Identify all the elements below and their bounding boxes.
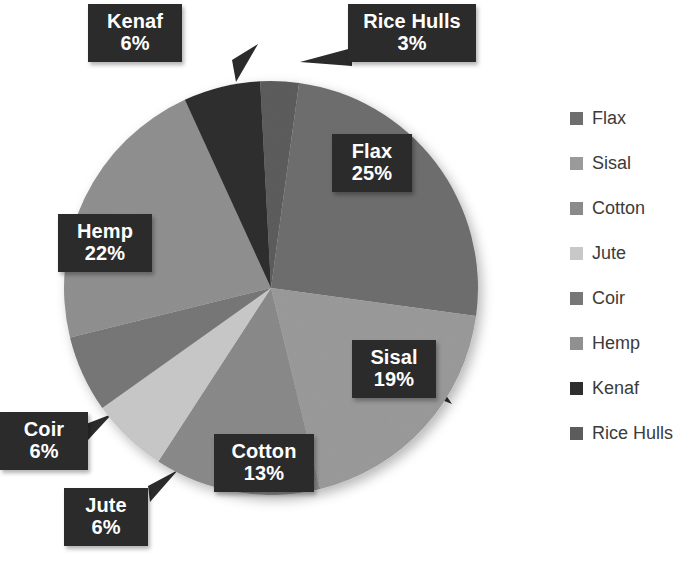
chart-legend: Flax Sisal Cotton Jute Coir Hemp Kenaf <box>570 96 691 456</box>
legend-item-jute[interactable]: Jute <box>570 231 691 276</box>
callout-jute-value: 6% <box>73 516 139 538</box>
callout-rice-hulls-name: Rice Hulls <box>357 10 467 32</box>
legend-swatch-jute-icon <box>570 247 583 260</box>
legend-swatch-coir-icon <box>570 292 583 305</box>
legend-label-sisal: Sisal <box>592 153 631 174</box>
legend-swatch-flax-icon <box>570 112 583 125</box>
legend-label-flax: Flax <box>592 108 626 129</box>
callout-flax-name: Flax <box>341 140 403 162</box>
callout-jute-name: Jute <box>73 494 139 516</box>
callout-rice-hulls: Rice Hulls 3% <box>348 4 476 62</box>
legend-swatch-cotton-icon <box>570 202 583 215</box>
legend-item-kenaf[interactable]: Kenaf <box>570 366 691 411</box>
legend-swatch-kenaf-icon <box>570 382 583 395</box>
callout-jute: Jute 6% <box>64 488 148 546</box>
legend-label-hemp: Hemp <box>592 333 640 354</box>
legend-swatch-sisal-icon <box>570 157 583 170</box>
callout-hemp-value: 22% <box>67 242 143 264</box>
callout-sisal-name: Sisal <box>361 346 427 368</box>
pie-plot-area: Kenaf 6% Rice Hulls 3% Flax 25% Hemp 22%… <box>0 0 540 566</box>
pie-chart: Kenaf 6% Rice Hulls 3% Flax 25% Hemp 22%… <box>0 0 691 566</box>
legend-label-kenaf: Kenaf <box>592 378 639 399</box>
callout-hemp-name: Hemp <box>67 220 143 242</box>
callout-coir-value: 6% <box>9 440 79 462</box>
callout-cotton-name: Cotton <box>223 440 305 462</box>
legend-item-cotton[interactable]: Cotton <box>570 186 691 231</box>
callout-flax-value: 25% <box>341 162 403 184</box>
legend-label-coir: Coir <box>592 288 625 309</box>
legend-item-rice-hulls[interactable]: Rice Hulls <box>570 411 691 456</box>
callout-cotton-value: 13% <box>223 462 305 484</box>
legend-item-hemp[interactable]: Hemp <box>570 321 691 366</box>
callout-coir-name: Coir <box>9 418 79 440</box>
legend-swatch-hemp-icon <box>570 337 583 350</box>
callout-sisal-value: 19% <box>361 368 427 390</box>
legend-label-rice-hulls: Rice Hulls <box>592 423 673 444</box>
callout-flax: Flax 25% <box>332 134 412 192</box>
callout-kenaf: Kenaf 6% <box>88 4 182 62</box>
legend-swatch-rice-hulls-icon <box>570 427 583 440</box>
legend-item-sisal[interactable]: Sisal <box>570 141 691 186</box>
legend-item-flax[interactable]: Flax <box>570 96 691 141</box>
callout-rice-hulls-value: 3% <box>357 32 467 54</box>
callout-kenaf-value: 6% <box>97 32 173 54</box>
legend-item-coir[interactable]: Coir <box>570 276 691 321</box>
callout-hemp: Hemp 22% <box>58 214 152 272</box>
legend-label-jute: Jute <box>592 243 626 264</box>
legend-label-cotton: Cotton <box>592 198 645 219</box>
callout-coir: Coir 6% <box>0 412 88 470</box>
pie-wedge-flax[interactable] <box>271 83 478 316</box>
callout-cotton: Cotton 13% <box>214 434 314 492</box>
callout-kenaf-name: Kenaf <box>97 10 173 32</box>
callout-sisal: Sisal 19% <box>352 340 436 398</box>
